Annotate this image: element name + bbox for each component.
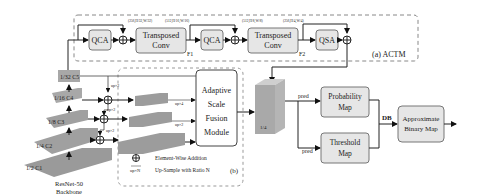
fused-feature-map: 1/4 [255, 79, 285, 134]
transposed-conv-block-1: Transposed Conv [136, 28, 186, 53]
backbone-layer-c5: 1/32 C5 [58, 70, 80, 82]
f2-label: F2 [299, 51, 305, 57]
db-label: DB [382, 114, 392, 122]
add-icon [100, 115, 108, 123]
pred-label: pred [298, 93, 309, 99]
threshold-map-box: Threshold Map [321, 133, 369, 163]
svg-text:Probability: Probability [328, 92, 362, 101]
approximate-binary-map-box: Approximate Binary Map [398, 106, 444, 142]
up-label: up×4 [175, 101, 183, 106]
up-label: up×2 [111, 83, 119, 88]
legend: Element-Wise Addition up×N Up-Sample wit… [130, 155, 210, 174]
svg-text:Fusion: Fusion [206, 114, 228, 123]
fpn-feature-2 [129, 112, 172, 127]
adaptive-scale-fusion-module: Adaptive Scale Fusion Module [196, 70, 237, 146]
svg-text:1/32 C5: 1/32 C5 [60, 74, 79, 80]
svg-text:1/16 C4: 1/16 C4 [54, 95, 73, 101]
svg-text:Transposed: Transposed [143, 31, 180, 40]
architecture-diagram: (a) ACTM QCA Transposed Conv (256,H/32,W… [0, 0, 483, 195]
svg-text:QSA: QSA [319, 36, 335, 45]
pred-label: pred [302, 148, 313, 154]
svg-text:QCA: QCA [92, 36, 109, 45]
add-icon [343, 36, 351, 44]
add-icon [96, 136, 104, 144]
svg-text:1/4 C2: 1/4 C2 [36, 143, 52, 149]
svg-text:1/4: 1/4 [260, 125, 267, 130]
backbone-layer-c3: 1/8 C3 [46, 110, 88, 128]
svg-text:1/8 C3: 1/8 C3 [48, 119, 64, 125]
dim-label: (256,H/32,W/32) [128, 19, 153, 24]
up-sample-icon: up×N [130, 168, 141, 173]
svg-text:Transposed: Transposed [255, 31, 292, 40]
backbone-name: ResNet-50 [55, 180, 83, 187]
svg-text:Map: Map [338, 103, 352, 112]
svg-text:Threshold: Threshold [330, 138, 361, 147]
transposed-conv-block-2: Transposed Conv [248, 28, 298, 53]
up-label: up×2 [107, 107, 115, 112]
actm-label: (a) ACTM [372, 50, 406, 59]
svg-text:Adaptive: Adaptive [202, 86, 232, 95]
svg-text:Up-Sample with Ratio N: Up-Sample with Ratio N [155, 167, 210, 173]
backbone-name: Backbone [56, 188, 82, 195]
qca-block-2: QCA [201, 30, 223, 50]
dim-label: (256,H/4,W/4) [283, 19, 304, 24]
backbone-layer-c4: 1/16 C4 [52, 88, 82, 103]
svg-text:Element-Wise Addition: Element-Wise Addition [155, 155, 207, 161]
up-label: up×2 [175, 122, 183, 127]
svg-text:Map: Map [338, 149, 352, 158]
fusion-label: (b) [230, 167, 239, 175]
probability-map-box: Probability Map [321, 87, 369, 117]
qsa-block: QSA [316, 30, 338, 50]
add-icon [119, 36, 127, 44]
fpn-feature-1 [135, 93, 168, 106]
fpn-feature-3 [118, 133, 185, 154]
dim-label: (512,H/16,W/16) [165, 19, 190, 24]
svg-text:Conv: Conv [152, 41, 169, 50]
qca-block-1: QCA [89, 30, 111, 50]
backbone-layer-c1: 1/2 C1 [24, 148, 112, 177]
svg-text:Binary Map: Binary Map [404, 125, 438, 133]
svg-text:Scale: Scale [208, 100, 226, 109]
add-icon [104, 96, 112, 104]
svg-text:1/2 C1: 1/2 C1 [26, 165, 42, 171]
add-icon [231, 36, 239, 44]
f1-label: F1 [187, 51, 193, 57]
svg-text:Conv: Conv [264, 41, 281, 50]
svg-text:Approximate: Approximate [403, 115, 440, 123]
svg-text:Module: Module [204, 128, 229, 137]
up-label: up×2 [106, 128, 114, 133]
dim-label: (512,H/8,W/8) [242, 19, 263, 24]
svg-text:QCA: QCA [204, 36, 221, 45]
